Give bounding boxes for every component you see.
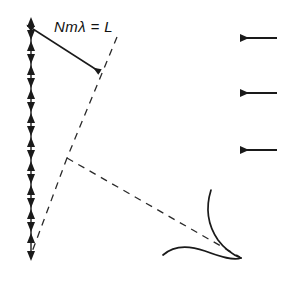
arrowhead-down [27, 126, 35, 136]
arrowhead-down [27, 30, 35, 40]
dashed-construction-lines [32, 37, 240, 257]
arrowhead-down [27, 222, 35, 232]
arrowhead-up [27, 41, 35, 51]
arrowhead-up [27, 161, 35, 171]
arrowhead-down-bottom [27, 251, 35, 261]
vertical-double-arrow-line [27, 17, 35, 261]
arrowhead-up [27, 113, 35, 123]
arrowhead-down [27, 198, 35, 208]
diagram-canvas: Nmλ = L [0, 0, 298, 284]
airfoil-upper-surface [208, 190, 241, 258]
length-measure-double-arrow [33, 29, 100, 72]
arrowhead-down [27, 54, 35, 64]
arrowhead-up [27, 185, 35, 195]
airfoil-lower-surface [163, 247, 241, 259]
arrowhead-up [27, 233, 35, 243]
arrowhead-up [27, 137, 35, 147]
arrowhead-down [27, 78, 35, 88]
arrowhead-up [27, 89, 35, 99]
arrowhead-down [27, 102, 35, 112]
arrowhead-up [27, 209, 35, 219]
flow-arrows-group [240, 38, 277, 150]
arrowhead-up-top [27, 17, 35, 27]
dashed-line-to-airfoil [67, 158, 240, 257]
dashed-line-lower-left [32, 158, 67, 252]
airfoil-cross-section [163, 190, 241, 259]
length-label: Nmλ = L [54, 18, 113, 35]
arrowhead-up [27, 65, 35, 75]
arrowhead-down [27, 150, 35, 160]
diagram-svg: Nmλ = L [0, 0, 298, 284]
arrowhead-down [27, 174, 35, 184]
